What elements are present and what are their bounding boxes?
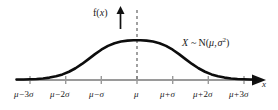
tick-mu: μ — [193, 89, 198, 99]
tick-label-plus-3-sigma: μ+3σ — [229, 90, 249, 99]
distribution-name: N — [199, 37, 206, 48]
tick-mu: μ — [14, 89, 19, 99]
tick-label-mu: μ — [134, 90, 140, 99]
distribution-notation: X~N(μ, σ2) — [182, 37, 229, 48]
dist-close-paren: ) — [226, 37, 229, 48]
tick-mu: μ — [50, 89, 55, 99]
distributed-as-symbol: ~ — [189, 37, 198, 48]
y-axis-arrow — [117, 6, 125, 29]
fx-close-paren: ) — [104, 7, 107, 18]
tick-sigma: σ — [208, 89, 212, 99]
tick-operator — [139, 89, 140, 99]
tick-mu: μ — [160, 89, 165, 99]
normal-distribution-figure: f(x) X~N(μ, σ2) x μ−3σ μ−2σ μ−σ μ μ+σ μ+… — [0, 0, 278, 110]
tick-label-plus-1-sigma: μ+σ — [160, 90, 175, 99]
x-axis-label: x — [262, 80, 266, 89]
tick-sigma: σ — [171, 89, 175, 99]
tick-sigma: σ — [244, 89, 248, 99]
y-axis-label: f(x) — [93, 8, 107, 18]
tick-sigma: σ — [29, 89, 33, 99]
tick-label-plus-2-sigma: μ+2σ — [193, 90, 213, 99]
tick-label-minus-2-sigma: μ−2σ — [50, 90, 70, 99]
tick-sigma: σ — [100, 89, 104, 99]
tick-mu: μ — [229, 89, 234, 99]
tick-label-minus-1-sigma: μ−σ — [89, 90, 104, 99]
tick-mu: μ — [89, 89, 94, 99]
tick-label-minus-3-sigma: μ−3σ — [14, 90, 34, 99]
tick-mu: μ — [134, 89, 139, 99]
tick-sigma: σ — [65, 89, 69, 99]
